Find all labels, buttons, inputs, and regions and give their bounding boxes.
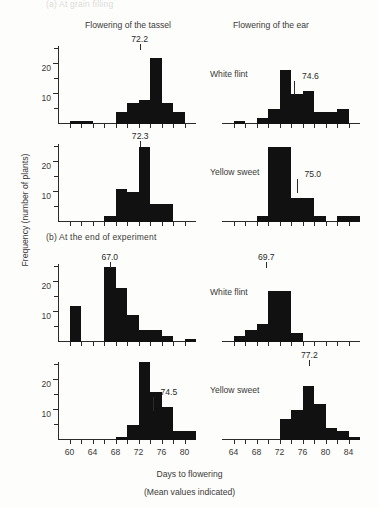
histogram-bar — [185, 339, 197, 342]
x-tick — [337, 440, 338, 444]
x-tick — [349, 440, 350, 444]
x-tick — [173, 124, 174, 128]
histogram-bar — [234, 336, 246, 342]
y-tick — [53, 379, 58, 380]
histogram-bar — [116, 288, 128, 342]
mean-value-label: 75.0 — [304, 169, 321, 179]
x-tick-label: 64 — [229, 448, 239, 457]
y-tick — [53, 409, 58, 410]
histogram-bar — [268, 291, 280, 342]
x-tick — [314, 440, 315, 444]
histogram-bar — [162, 204, 174, 222]
y-tick — [54, 364, 58, 365]
histogram-bar — [280, 147, 292, 222]
x-tick — [139, 342, 140, 346]
histogram-bar — [268, 109, 280, 124]
x-tick-label: 72 — [275, 448, 285, 457]
y-axis-line — [58, 46, 59, 124]
histogram-bar — [116, 189, 128, 222]
x-tick — [234, 222, 235, 226]
x-tick-label: 80 — [321, 448, 331, 457]
x-tick — [185, 342, 186, 346]
histogram-bar — [257, 216, 269, 222]
x-tick — [150, 222, 151, 226]
histogram-bar — [280, 291, 292, 342]
histogram-bar — [326, 112, 338, 124]
x-tick — [268, 440, 269, 444]
histogram-bar — [150, 330, 162, 342]
column-header-ear: Flowering of the ear — [233, 20, 309, 30]
x-tick — [268, 124, 269, 128]
histogram-bar — [314, 404, 326, 440]
histogram-bar — [337, 109, 349, 124]
mean-value-label: 69.7 — [258, 252, 275, 262]
x-tick — [291, 124, 292, 128]
histogram-bar — [185, 431, 197, 440]
x-tick — [81, 342, 82, 346]
x-tick — [303, 440, 304, 444]
x-tick — [93, 124, 94, 128]
x-tick — [234, 342, 235, 346]
chart-panel-b-yellow-sweet-ear: 64687276808477.2 — [222, 362, 360, 440]
mean-value-label: 67.0 — [101, 252, 118, 262]
x-tick — [162, 124, 163, 128]
x-tick — [280, 222, 281, 226]
y-axis-line — [58, 264, 59, 342]
histogram-bar — [268, 147, 280, 222]
histogram-bar — [349, 216, 361, 222]
mean-indicator-tick — [140, 141, 141, 147]
histogram-bar — [162, 407, 174, 440]
histogram-bar — [173, 112, 185, 124]
x-tick-label: 68 — [111, 448, 121, 457]
x-tick — [257, 222, 258, 226]
y-tick — [53, 161, 58, 162]
x-tick — [139, 222, 140, 226]
y-axis-line — [58, 362, 59, 440]
x-tick — [291, 440, 292, 444]
x-tick — [326, 342, 327, 346]
histogram-bar — [257, 324, 269, 342]
x-tick — [291, 222, 292, 226]
histogram-bar — [173, 431, 185, 440]
x-tick — [185, 124, 186, 128]
x-tick — [280, 440, 281, 444]
x-tick — [173, 440, 174, 444]
x-tick — [268, 222, 269, 226]
y-tick — [53, 93, 58, 94]
x-tick — [162, 440, 163, 444]
histogram-bar — [257, 118, 269, 124]
x-tick — [337, 342, 338, 346]
y-tick — [54, 296, 58, 297]
histogram-bar — [280, 70, 292, 124]
x-tick — [326, 222, 327, 226]
histogram-bar — [337, 431, 349, 440]
x-tick — [280, 124, 281, 128]
x-tick — [116, 124, 117, 128]
x-tick — [245, 222, 246, 226]
x-tick — [303, 124, 304, 128]
y-tick — [54, 424, 58, 425]
section-b-label: (b) At the end of experiment — [46, 232, 157, 242]
mean-indicator-tick — [294, 81, 295, 95]
x-tick — [150, 124, 151, 128]
histogram-bar — [326, 428, 338, 440]
histogram-bar — [139, 147, 151, 222]
mean-indicator-tick — [140, 44, 141, 50]
histogram-bar — [139, 330, 151, 342]
mean-indicator-tick — [297, 179, 298, 193]
histogram-bar — [150, 204, 162, 222]
y-tick — [54, 78, 58, 79]
histogram-bar — [150, 58, 162, 124]
histogram-bar — [116, 437, 128, 440]
histogram-bar — [245, 330, 257, 342]
x-tick — [303, 222, 304, 226]
histogram-bar — [81, 121, 93, 124]
x-tick — [173, 342, 174, 346]
x-tick — [139, 440, 140, 444]
y-tick — [54, 108, 58, 109]
x-tick — [162, 342, 163, 346]
histogram-bar — [314, 112, 326, 124]
y-tick — [54, 394, 58, 395]
histogram-bar — [303, 386, 315, 440]
x-tick — [150, 440, 151, 444]
